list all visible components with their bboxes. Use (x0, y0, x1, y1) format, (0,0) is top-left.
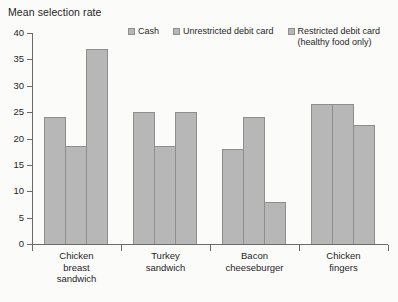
y-axis-tick: 20 (27, 139, 32, 140)
y-axis-tick-label: 25 (13, 106, 24, 117)
chart-figure: Mean selection rate CashUnrestricted deb… (0, 0, 398, 302)
y-axis-tick: 15 (27, 165, 32, 166)
bar (133, 112, 155, 244)
bar (175, 112, 197, 244)
bar (264, 202, 286, 244)
y-axis-tick-label: 35 (13, 53, 24, 64)
bar (86, 49, 108, 244)
bar-group-3 (222, 33, 286, 244)
x-axis-category-labels: Chicken breast sandwichTurkey sandwichBa… (32, 250, 388, 298)
x-axis-tick (388, 245, 389, 251)
y-axis-tick: 5 (27, 218, 32, 219)
bar (65, 146, 87, 244)
y-axis-tick: 25 (27, 112, 32, 113)
y-axis-tick-label: 5 (19, 212, 24, 223)
bar (154, 146, 176, 244)
y-axis-tick-label: 20 (13, 133, 24, 144)
bar (311, 104, 333, 244)
bar (44, 117, 66, 244)
x-axis-category-label: Chicken fingers (299, 250, 388, 273)
bar-group-4 (311, 33, 375, 244)
x-axis-category-label: Chicken breast sandwich (32, 250, 121, 285)
bar (353, 125, 375, 244)
page-title: Mean selection rate (8, 6, 102, 18)
plot-area: 0510152025303540 (32, 33, 388, 245)
y-axis-tick: 30 (27, 86, 32, 87)
y-axis-line (32, 33, 33, 245)
bar (222, 149, 244, 244)
y-axis-tick-label: 10 (13, 185, 24, 196)
x-axis-category-label: Bacon cheeseburger (210, 250, 299, 273)
y-axis-tick: 35 (27, 59, 32, 60)
bar (243, 117, 265, 244)
x-axis-category-label: Turkey sandwich (121, 250, 210, 273)
y-axis-tick-label: 0 (19, 238, 24, 249)
y-axis-tick: 10 (27, 191, 32, 192)
y-axis-tick-label: 30 (13, 80, 24, 91)
y-axis-tick-label: 40 (13, 27, 24, 38)
y-axis-tick: 40 (27, 33, 32, 34)
bar (332, 104, 354, 244)
bar-group-2 (133, 33, 197, 244)
bar-group-1 (44, 33, 108, 244)
y-axis-tick-label: 15 (13, 159, 24, 170)
